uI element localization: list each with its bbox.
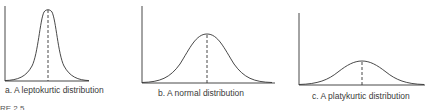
panel-normal <box>142 6 275 83</box>
panel-leptokurtic <box>5 6 89 81</box>
panel-platykurtic <box>299 13 425 85</box>
platykurtic-curve <box>299 61 424 85</box>
caption-leptokurtic: a. A leptokurtic distribution <box>5 85 104 95</box>
caption-normal: b. A normal distribution <box>158 88 244 98</box>
caption-platykurtic: c. A platykurtic distribution <box>312 91 410 101</box>
leptokurtic-curve <box>5 10 89 81</box>
figure-label: RE 2.5 <box>0 104 24 110</box>
